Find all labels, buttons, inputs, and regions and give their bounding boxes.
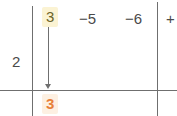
downward-arrow-shaft: [48, 26, 49, 85]
top-term-3-label: −6: [125, 11, 142, 26]
vertical-divider-left: [32, 6, 33, 116]
division-grid-diagram: 2 3 −5 −6 + 3: [0, 0, 177, 116]
plus-sign-label: +: [166, 11, 175, 26]
bottom-result-term: 3: [42, 94, 58, 114]
top-highlighted-term: 3: [42, 7, 58, 27]
left-multiplier-label: 2: [12, 54, 20, 69]
top-term-2-label: −5: [79, 11, 96, 26]
downward-arrow-head: [45, 84, 51, 89]
vertical-divider-right: [157, 2, 158, 116]
horizontal-rule: [0, 90, 177, 91]
